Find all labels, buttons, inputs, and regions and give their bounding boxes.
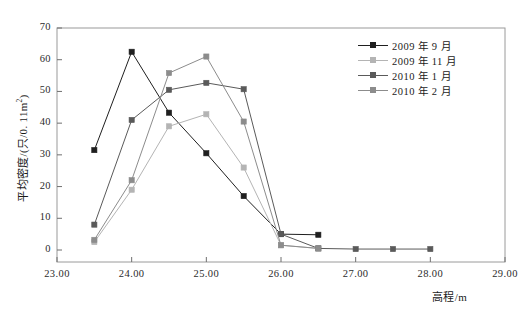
series-data-point (204, 54, 209, 59)
series-data-point (428, 246, 433, 251)
legend-marker (370, 72, 376, 78)
chart-figure: 平均密度/(只/0. 11m2) 高程/m 2009 年 9 月2009 年 1… (0, 0, 524, 316)
legend-marker (370, 87, 376, 93)
series-data-point (278, 232, 283, 237)
y-axis-tick-label: 40 (27, 116, 51, 127)
series-data-point (390, 246, 395, 251)
x-axis-label: 高程/m (432, 288, 467, 304)
y-axis-tick-label: 30 (27, 148, 51, 159)
x-axis-tick-label: 24.00 (105, 268, 159, 279)
series-data-point (316, 246, 321, 251)
series-data-point (241, 193, 246, 198)
legend-marker (370, 42, 376, 48)
series-data-point (241, 165, 246, 170)
x-axis-tick-label: 29.00 (478, 268, 524, 279)
legend-swatch-icon (358, 40, 388, 51)
legend-item[interactable]: 2009 年 11 月 (358, 53, 490, 68)
series-data-point (166, 110, 171, 115)
chart-series (92, 80, 433, 251)
series-line (94, 52, 318, 235)
series-line (94, 114, 318, 248)
legend-item[interactable]: 2010 年 2 月 (358, 83, 490, 98)
series-data-point (129, 187, 134, 192)
legend-swatch-icon (358, 70, 388, 81)
legend-label: 2009 年 11 月 (388, 53, 457, 68)
series-data-point (129, 49, 134, 54)
series-line (94, 83, 430, 249)
x-axis-tick-label: 28.00 (403, 268, 457, 279)
series-data-point (241, 87, 246, 92)
x-axis-tick-label: 27.00 (329, 268, 383, 279)
series-data-point (166, 70, 171, 75)
series-data-point (278, 243, 283, 248)
series-data-point (166, 87, 171, 92)
y-axis-tick-label: 20 (27, 180, 51, 191)
legend-swatch-icon (358, 85, 388, 96)
series-data-point (241, 119, 246, 124)
series-data-point (353, 246, 358, 251)
x-axis-tick-label: 23.00 (30, 268, 84, 279)
legend-marker (370, 57, 376, 63)
chart-legend: 2009 年 9 月2009 年 11 月2010 年 1 月2010 年 2 … (356, 36, 490, 100)
series-data-point (316, 232, 321, 237)
chart-series (92, 49, 321, 237)
series-data-point (92, 237, 97, 242)
y-axis-label-exponent: 2 (15, 98, 24, 102)
series-data-point (129, 178, 134, 183)
y-axis-tick-label: 70 (27, 21, 51, 32)
series-data-point (204, 151, 209, 156)
y-axis-tick-label: 10 (27, 211, 51, 222)
series-data-point (204, 80, 209, 85)
legend-label: 2009 年 9 月 (388, 38, 451, 53)
x-axis-tick-label: 25.00 (179, 268, 233, 279)
series-data-point (166, 124, 171, 129)
legend-item[interactable]: 2010 年 1 月 (358, 68, 490, 83)
legend-label: 2010 年 2 月 (388, 83, 451, 98)
legend-swatch-icon (358, 55, 388, 66)
series-data-point (92, 148, 97, 153)
series-data-point (204, 112, 209, 117)
legend-item[interactable]: 2009 年 9 月 (358, 38, 490, 53)
y-axis-tick-label: 0 (27, 243, 51, 254)
y-axis-tick-label: 50 (27, 84, 51, 95)
legend-label: 2010 年 1 月 (388, 68, 451, 83)
chart-series (92, 112, 321, 251)
series-data-point (129, 117, 134, 122)
series-data-point (92, 222, 97, 227)
x-axis-tick-label: 26.00 (254, 268, 308, 279)
y-axis-tick-label: 60 (27, 53, 51, 64)
